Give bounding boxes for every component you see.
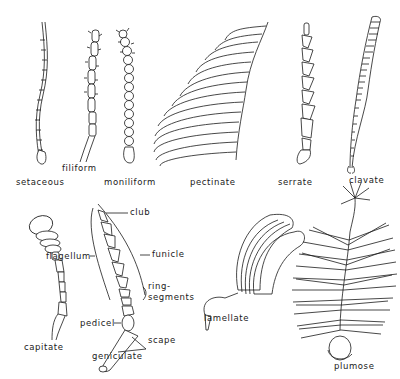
label-club: club bbox=[130, 208, 150, 217]
antennae-diagram: setaceous filiform moniliform pectinate … bbox=[0, 0, 400, 379]
moniliform-drawing bbox=[116, 28, 135, 163]
serrate-drawing bbox=[297, 23, 315, 164]
plumose-drawing bbox=[292, 182, 397, 360]
label-setaceous: setaceous bbox=[16, 178, 65, 187]
label-serrate: serrate bbox=[278, 178, 312, 187]
geniculate-drawing bbox=[91, 204, 145, 372]
label-ring-segments-2: segments bbox=[148, 293, 195, 302]
label-moniliform: moniliform bbox=[104, 178, 156, 187]
label-filiform: filiform bbox=[62, 164, 97, 173]
label-lamellate: lamellate bbox=[204, 314, 249, 323]
label-capitate: capitate bbox=[24, 343, 64, 352]
clavate-drawing bbox=[348, 16, 381, 173]
label-scape: scape bbox=[148, 336, 176, 345]
filiform-drawing bbox=[80, 30, 102, 162]
capitate-drawing bbox=[27, 212, 67, 340]
label-pedicel: pedicel bbox=[80, 319, 115, 328]
label-funicle: funicle bbox=[152, 250, 185, 259]
label-ring-segments-1: ring- bbox=[148, 282, 171, 291]
label-plumose: plumose bbox=[334, 362, 374, 371]
label-flagellum: flagellum bbox=[46, 252, 91, 261]
pectinate-drawing bbox=[154, 22, 268, 166]
setaceous-drawing bbox=[35, 22, 47, 164]
label-geniculate: geniculate bbox=[92, 352, 143, 361]
label-pectinate: pectinate bbox=[190, 178, 236, 187]
label-clavate: clavate bbox=[349, 176, 384, 185]
antennae-drawings bbox=[0, 0, 400, 379]
